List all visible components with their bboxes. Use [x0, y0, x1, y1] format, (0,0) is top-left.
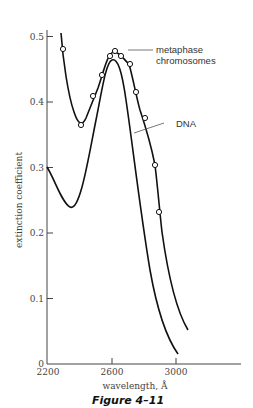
x-tick-label: 2200: [37, 367, 60, 377]
annotation-metaphase: metaphase: [156, 44, 203, 55]
annotation-dna: DNA: [176, 118, 197, 129]
y-axis-label: extinction coefficient: [14, 152, 24, 248]
chart: 0.5 0.4 0.3 0.2 0.1 0 2200 2600 3000 wav…: [0, 0, 253, 408]
y-tick-label: 0.2: [30, 228, 44, 238]
annotation-chromosomes: chromosomes: [156, 55, 216, 66]
y-tick-label: 0.1: [30, 294, 44, 304]
y-tick-label: 0.5: [30, 32, 45, 42]
dna-curve: [47, 60, 178, 354]
x-tick-label: 3000: [165, 367, 188, 377]
x-axis-label: wavelength, Å: [103, 380, 168, 391]
metaphase-chromosomes-curve: [61, 33, 188, 330]
x-tick-label: 2600: [101, 367, 124, 377]
x-ticks: [112, 358, 176, 364]
annotation-leader: [134, 123, 164, 133]
figure-caption: Figure 4–11: [92, 394, 164, 407]
y-tick-label: 0.4: [30, 97, 45, 107]
y-tick-label: 0.3: [30, 163, 45, 173]
